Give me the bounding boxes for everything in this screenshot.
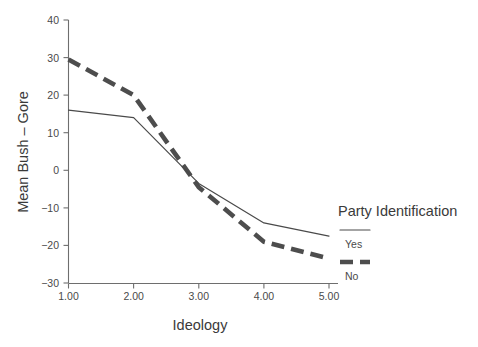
legend-label-no: No <box>345 270 359 282</box>
y-tick-label-40: 40 <box>47 14 59 26</box>
y-tick-label-neg30: −30 <box>41 277 59 289</box>
x-tick-label-3: 3.00 <box>189 290 210 302</box>
chart-page: 40 30 20 10 0 −10 −20 −30 1.00 2.00 3.00… <box>0 0 478 347</box>
y-axis-ticks <box>64 20 69 283</box>
x-axis-ticks <box>69 284 330 289</box>
x-tick-label-4: 4.00 <box>254 290 275 302</box>
y-tick-label-neg10: −10 <box>41 202 59 214</box>
legend-label-yes: Yes <box>345 238 362 250</box>
y-tick-label-30: 30 <box>47 52 59 64</box>
x-tick-label-5: 5.00 <box>319 290 340 302</box>
x-tick-label-2: 2.00 <box>123 290 144 302</box>
y-tick-label-neg20: −20 <box>41 239 59 251</box>
legend-title: Party Identification <box>338 203 457 219</box>
y-tick-label-10: 10 <box>47 127 59 139</box>
x-tick-label-1: 1.00 <box>58 290 79 302</box>
x-axis-title: Ideology <box>173 317 229 333</box>
y-tick-label-20: 20 <box>47 89 59 101</box>
line-chart: 40 30 20 10 0 −10 −20 −30 1.00 2.00 3.00… <box>0 0 478 347</box>
y-axis-title: Mean Bush – Gore <box>15 91 31 213</box>
legend: Party Identification Yes No <box>338 203 457 282</box>
y-tick-label-0: 0 <box>53 164 59 176</box>
series-line-yes <box>69 110 330 236</box>
